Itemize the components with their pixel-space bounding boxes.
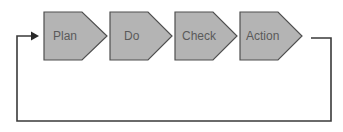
arrowhead-icon	[31, 32, 39, 41]
step-action: Action	[240, 12, 302, 60]
step-label: Do	[124, 29, 140, 43]
pdca-cycle-diagram: Plan Do Check Action	[0, 0, 343, 132]
step-label: Action	[246, 29, 279, 43]
step-do: Do	[110, 12, 172, 60]
pentagon-arrow-shape	[110, 12, 172, 60]
step-label: Plan	[53, 29, 77, 43]
step-check: Check	[175, 12, 237, 60]
step-label: Check	[182, 29, 217, 43]
step-plan: Plan	[44, 12, 107, 60]
